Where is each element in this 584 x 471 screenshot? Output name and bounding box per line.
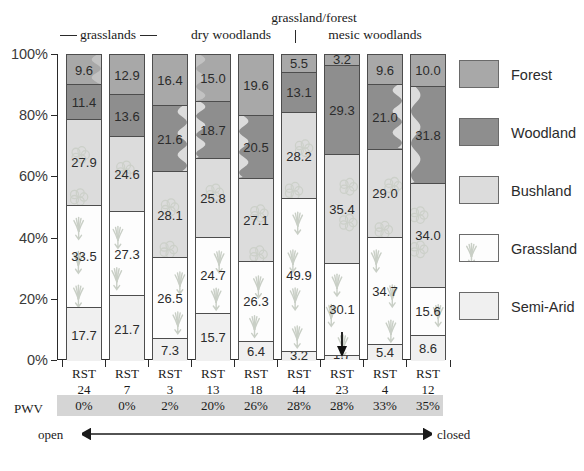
bar-value-label: 29.0 — [368, 187, 402, 200]
bar-segment-rst-18-semi-arid[interactable]: 6.4 — [239, 341, 273, 361]
bar-segment-rst-24-woodland[interactable]: 11.4 — [67, 84, 101, 119]
group-header-dry-woodlands: dry woodlands — [164, 27, 298, 43]
bar-segment-rst-24-bushland[interactable]: 27.9 — [67, 119, 101, 204]
bar-segment-rst-24-forest[interactable]: 9.6 — [67, 55, 101, 84]
group-header-grasslands: grasslands — [57, 27, 159, 43]
bar-rst-12[interactable]: 10.031.834.015.68.6 — [410, 54, 446, 360]
bar-segment-rst-44-forest[interactable]: 5.5 — [282, 55, 316, 72]
gradient-label-closed: closed — [437, 427, 470, 443]
bar-value-label: 33.5 — [67, 250, 101, 263]
x-label-prefix: RST — [373, 366, 397, 381]
x-label-prefix: RST — [416, 366, 440, 381]
bar-segment-rst-18-woodland[interactable]: 20.5 — [239, 115, 273, 178]
y-axis-label-80: 80% — [19, 107, 48, 123]
woodland-swatch-icon — [459, 118, 499, 146]
bar-segment-rst-23-bushland[interactable]: 35.4 — [325, 154, 359, 262]
bar-value-label: 27.9 — [67, 156, 101, 169]
bar-segment-rst-18-forest[interactable]: 19.6 — [239, 55, 273, 115]
pwv-cell-rst-3: 2% — [148, 398, 192, 414]
x-label-prefix: RST — [244, 366, 268, 381]
bar-rst-7[interactable]: 12.913.624.627.321.7 — [109, 54, 145, 360]
y-axis-label-60: 60% — [19, 168, 48, 184]
bar-segment-rst-7-bushland[interactable]: 24.6 — [110, 136, 144, 211]
bar-segment-rst-13-grassland[interactable]: 24.7 — [196, 237, 230, 313]
bar-rst-13[interactable]: 15.018.725.824.715.7 — [195, 54, 231, 360]
bar-segment-rst-4-grassland[interactable]: 34.7 — [368, 237, 402, 343]
x-label-prefix: RST — [115, 366, 139, 381]
bar-segment-rst-12-semi-arid[interactable]: 8.6 — [411, 335, 445, 361]
bar-segment-rst-44-woodland[interactable]: 13.1 — [282, 72, 316, 112]
bar-segment-rst-12-forest[interactable]: 10.0 — [411, 55, 445, 86]
group-header-grassland-forest-label: grassland/forest — [271, 10, 356, 25]
bar-value-label: 10.0 — [411, 64, 445, 77]
bar-segment-rst-7-forest[interactable]: 12.9 — [110, 55, 144, 94]
bar-segment-rst-7-semi-arid[interactable]: 21.7 — [110, 295, 144, 361]
bar-segment-rst-18-grassland[interactable]: 26.3 — [239, 261, 273, 341]
bar-segment-rst-23-forest[interactable]: 3.2 — [325, 55, 359, 65]
group-header-grasslands-label: grasslands — [80, 27, 136, 42]
bar-segment-rst-3-grassland[interactable]: 26.5 — [153, 257, 187, 338]
bar-segment-rst-12-bushland[interactable]: 34.0 — [411, 183, 445, 287]
y-axis-tick-0 — [51, 360, 57, 361]
bar-value-label: 34.0 — [411, 229, 445, 242]
bar-segment-rst-44-bushland[interactable]: 28.2 — [282, 112, 316, 198]
bar-rst-18[interactable]: 19.620.527.126.36.4 — [238, 54, 274, 360]
bar-rst-23[interactable]: 3.229.335.430.11.7 — [324, 54, 360, 360]
bar-value-label: 29.3 — [325, 104, 359, 117]
bar-value-label: 24.7 — [196, 269, 230, 282]
bar-segment-rst-12-woodland[interactable]: 31.8 — [411, 86, 445, 183]
bar-segment-rst-3-semi-arid[interactable]: 7.3 — [153, 338, 187, 360]
grassland-swatch-icon — [459, 234, 499, 262]
gradient-double-arrow-icon — [82, 425, 432, 443]
bar-value-label: 8.6 — [411, 342, 445, 355]
bar-segment-rst-7-woodland[interactable]: 13.6 — [110, 94, 144, 136]
bar-rst-3[interactable]: 16.421.628.126.57.3 — [152, 54, 188, 360]
gradient-label-open: open — [38, 427, 63, 443]
legend-label: Bushland — [511, 183, 571, 199]
bar-segment-rst-13-semi-arid[interactable]: 15.7 — [196, 313, 230, 361]
bar-segment-rst-44-grassland[interactable]: 49.9 — [282, 198, 316, 351]
bar-value-label: 27.1 — [239, 213, 273, 226]
bar-value-label: 28.1 — [153, 208, 187, 221]
bar-value-label: 15.0 — [196, 71, 230, 84]
bar-value-label: 21.6 — [153, 132, 187, 145]
bar-segment-rst-24-grassland[interactable]: 33.5 — [67, 205, 101, 308]
bar-value-label: 13.6 — [110, 109, 144, 122]
stacked-bar-chart-figure: grasslands dry woodlands grassland/fores… — [0, 0, 584, 471]
bar-segment-rst-3-forest[interactable]: 16.4 — [153, 55, 187, 105]
bar-segment-rst-3-woodland[interactable]: 21.6 — [153, 105, 187, 171]
bar-segment-rst-24-semi-arid[interactable]: 17.7 — [67, 307, 101, 361]
bar-segment-rst-18-bushland[interactable]: 27.1 — [239, 178, 273, 261]
x-label-prefix: RST — [287, 366, 311, 381]
bar-value-label: 9.6 — [368, 63, 402, 76]
x-label-prefix: RST — [72, 366, 96, 381]
bar-segment-rst-4-woodland[interactable]: 21.0 — [368, 84, 402, 148]
bar-rst-24[interactable]: 9.611.427.933.517.7 — [66, 54, 102, 360]
bar-segment-rst-13-bushland[interactable]: 25.8 — [196, 158, 230, 237]
bar-value-label: 27.3 — [110, 247, 144, 260]
forest-swatch-icon — [459, 60, 499, 88]
bar-value-label: 13.1 — [282, 86, 316, 99]
bar-segment-rst-12-grassland[interactable]: 15.6 — [411, 287, 445, 335]
pwv-cell-rst-4: 33% — [363, 398, 407, 414]
bar-segment-rst-4-bushland[interactable]: 29.0 — [368, 149, 402, 238]
bar-segment-rst-4-forest[interactable]: 9.6 — [368, 55, 402, 84]
bar-rst-4[interactable]: 9.621.029.034.75.4 — [367, 54, 403, 360]
bar-segment-rst-23-woodland[interactable]: 29.3 — [325, 65, 359, 155]
bar-value-label: 7.3 — [153, 343, 187, 356]
bar-rst-44[interactable]: 5.513.128.249.93.2 — [281, 54, 317, 360]
bar-segment-rst-4-semi-arid[interactable]: 5.4 — [368, 344, 402, 361]
bar-segment-rst-3-bushland[interactable]: 28.1 — [153, 171, 187, 257]
bar-value-label: 21.0 — [368, 111, 402, 124]
bar-segment-rst-13-forest[interactable]: 15.0 — [196, 55, 230, 101]
bar-value-label: 3.2 — [282, 351, 316, 361]
x-label-prefix: RST — [201, 366, 225, 381]
bar-segment-rst-7-grassland[interactable]: 27.3 — [110, 211, 144, 295]
pwv-cell-rst-18: 26% — [234, 398, 278, 414]
bar-value-label: 3.2 — [325, 55, 359, 65]
bar-segment-rst-44-semi-arid[interactable]: 3.2 — [282, 351, 316, 361]
semiarid-swatch-icon — [459, 292, 499, 320]
bar-segment-rst-13-woodland[interactable]: 18.7 — [196, 101, 230, 158]
bar-value-label: 49.9 — [282, 269, 316, 282]
group-header-grassland-forest: grassland/forest — [233, 10, 395, 26]
